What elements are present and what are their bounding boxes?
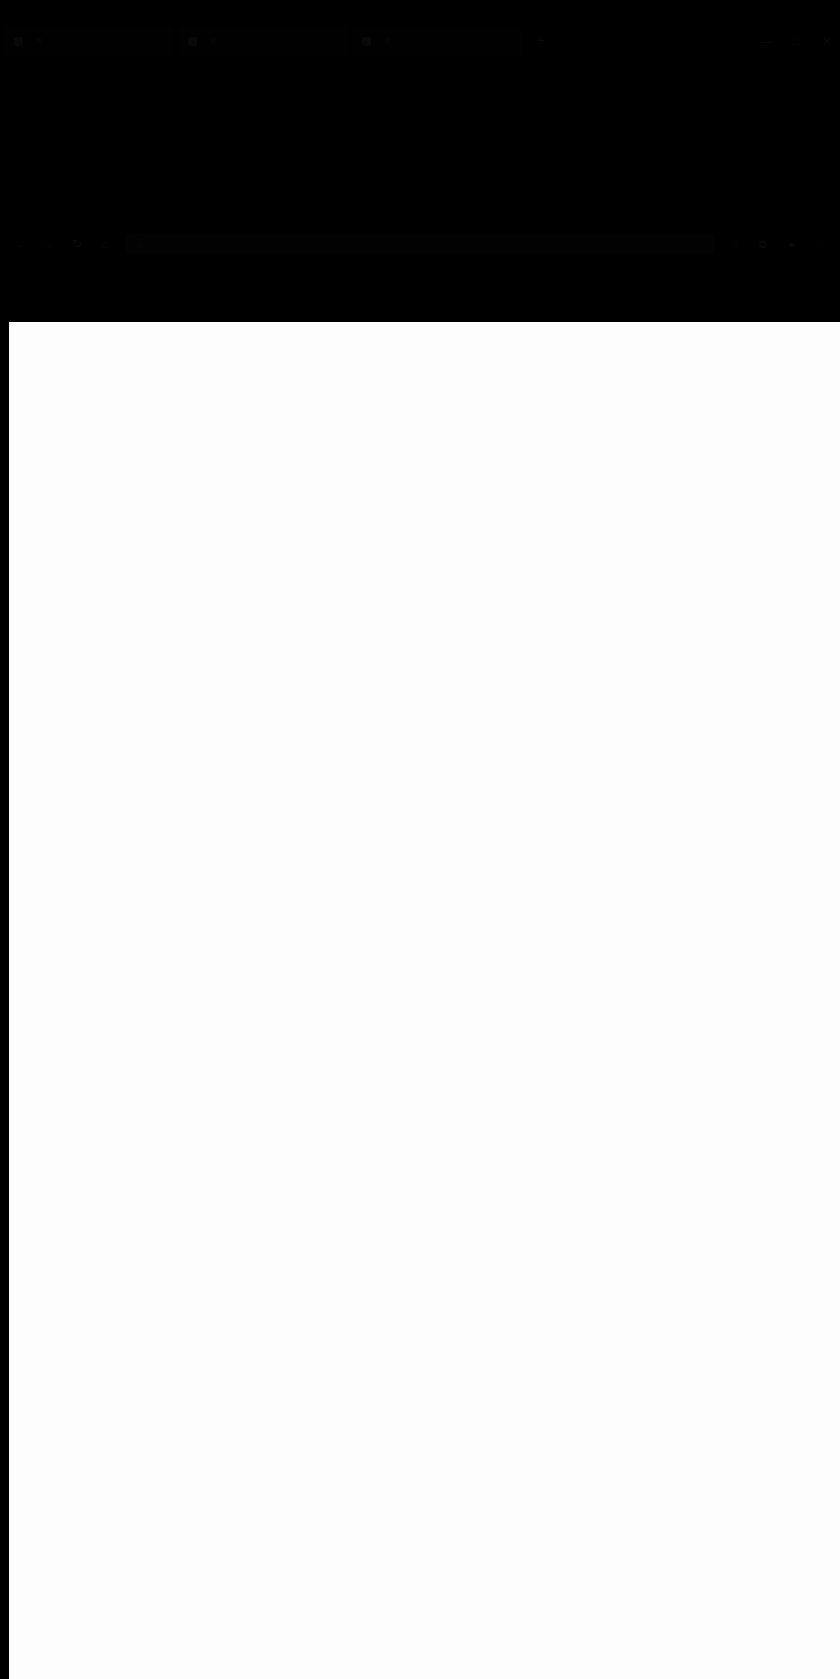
favicon-icon [362,37,371,46]
reload-icon[interactable]: ↻ [68,235,86,253]
close-icon[interactable]: ✕ [209,36,217,46]
browser-tab[interactable]: ✕ [4,26,174,56]
forward-icon[interactable]: → [40,235,58,253]
page-body-text [9,322,840,1679]
favicon-icon [188,37,197,46]
browser-chrome: ✕ ✕ ✕ + — □ ✕ ← → ↻ ⌂ [0,0,840,322]
address-bar[interactable]: ⓘ [124,233,716,255]
extensions-icon[interactable]: ⧉ [754,235,772,253]
window-controls: — □ ✕ [758,29,834,53]
close-icon[interactable]: ✕ [383,36,391,46]
bookmark-icon[interactable]: ☆ [726,235,744,253]
page-canvas [9,322,840,1679]
tab-strip: ✕ ✕ ✕ + — □ ✕ [0,26,840,56]
security-icon: ⓘ [136,240,145,249]
new-tab-button[interactable]: + [530,30,552,52]
browser-window: ✕ ✕ ✕ + — □ ✕ ← → ↻ ⌂ [0,0,840,1679]
close-icon[interactable]: ✕ [35,36,43,46]
menu-icon[interactable]: ⋮ [810,235,828,253]
browser-tab[interactable]: ✕ [352,26,522,56]
browser-tab[interactable]: ✕ [178,26,348,56]
favicon-icon [14,37,23,46]
viewport-left-gutter [0,322,9,1679]
back-icon[interactable]: ← [12,235,30,253]
minimize-icon[interactable]: — [758,29,774,53]
browser-toolbar: ← → ↻ ⌂ ⓘ ☆ ⧉ ● ⋮ [0,228,840,260]
content-area [0,322,840,1679]
profile-icon[interactable]: ● [782,235,800,253]
close-icon[interactable]: ✕ [818,29,834,53]
maximize-icon[interactable]: □ [788,29,804,53]
home-icon[interactable]: ⌂ [96,235,114,253]
